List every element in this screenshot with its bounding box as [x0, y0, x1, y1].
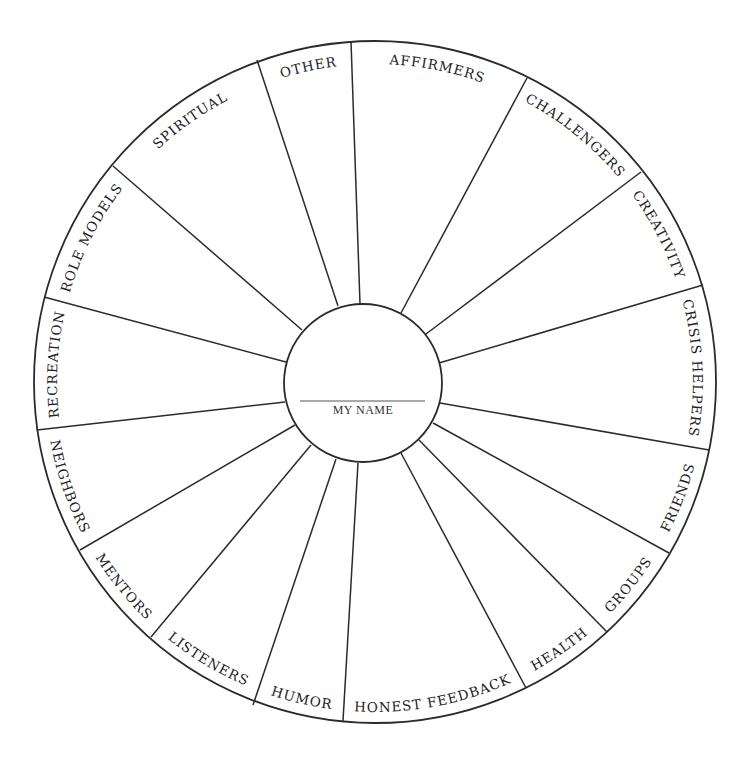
segment-label-other: OTHER: [278, 53, 338, 81]
divider-recreation-role-models: [44, 297, 286, 362]
divider-mentors-neighbors: [80, 425, 295, 550]
divider-groups-health: [419, 440, 607, 632]
divider-challengers-creativity: [426, 172, 641, 334]
segment-label-challengers: CHALLENGERS: [523, 90, 629, 180]
segment-label-spiritual: SPIRITUAL: [149, 88, 230, 152]
divider-spiritual-other: [257, 60, 338, 306]
segment-label-humor: HUMOR: [269, 683, 333, 713]
segment-label-health: HEALTH: [528, 623, 591, 673]
divider-neighbors-recreation: [37, 402, 285, 430]
segment-label-groups: GROUPS: [601, 553, 655, 615]
divider-affirmers-challengers: [401, 78, 527, 313]
my-name-label: MY NAME: [333, 403, 394, 417]
divider-humor-listeners: [253, 459, 336, 705]
segment-label-recreation: RECREATION: [44, 309, 68, 419]
segment-label-neighbors: NEIGHBORS: [47, 438, 94, 536]
segment-label-friends: FRIENDS: [657, 461, 698, 534]
center-circle: [284, 304, 442, 462]
divider-honest-humor: [343, 463, 358, 721]
divider-listeners-mentors: [151, 445, 311, 637]
segment-label-crisis-helpers: CRISIS HELPERS: [680, 297, 707, 438]
segment-label-honest-feedback: HONEST FEEDBACK: [354, 670, 513, 715]
divider-crisis-friends: [440, 403, 709, 450]
divider-other-affirmers: [351, 41, 360, 304]
divider-friends-groups: [433, 423, 669, 553]
divider-health-honest: [401, 453, 526, 688]
divider-role-models-spiritual: [113, 166, 302, 330]
segment-label-role-models: ROLE MODELS: [57, 180, 126, 294]
segment-label-creativity: CREATIVITY: [629, 187, 688, 281]
divider-creativity-crisis: [439, 285, 703, 363]
segment-label-affirmers: AFFIRMERS: [388, 51, 487, 86]
support-wheel-diagram: MY NAME AFFIRMERS CHALLENGERS CREATIVITY…: [0, 0, 747, 763]
